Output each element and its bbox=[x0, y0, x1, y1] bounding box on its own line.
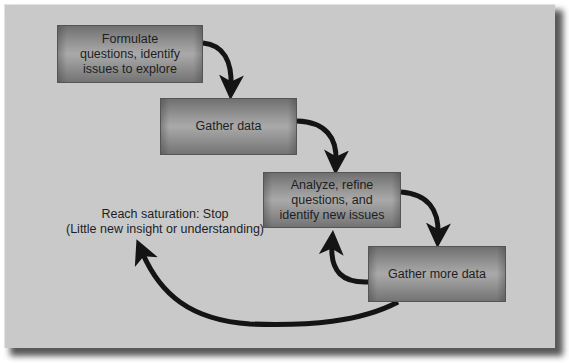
step-analyze-line-2: questions, and bbox=[280, 193, 385, 208]
step-formulate-line-3: issues to explore bbox=[80, 62, 180, 77]
step-formulate-questions: Formulate questions, identify issues to … bbox=[57, 25, 203, 83]
arrow-gather-more-to-analyze bbox=[332, 244, 368, 282]
arrow-analyze-to-gather-more bbox=[401, 192, 438, 234]
stop-note: Reach saturation: Stop (Little new insig… bbox=[60, 207, 270, 237]
arrow-formulate-to-gather bbox=[203, 43, 231, 86]
step-gather-more-label: Gather more data bbox=[388, 267, 486, 282]
step-gather-label: Gather data bbox=[195, 119, 261, 134]
step-analyze-line-3: identify new issues bbox=[280, 208, 385, 223]
step-formulate-line-1: Formulate bbox=[80, 32, 180, 47]
step-formulate-line-2: questions, identify bbox=[80, 47, 180, 62]
stop-note-line-1: Reach saturation: Stop bbox=[60, 207, 270, 222]
step-analyze-refine: Analyze, refine questions, and identify … bbox=[263, 172, 401, 228]
step-analyze-line-1: Analyze, refine bbox=[280, 178, 385, 193]
arrow-gather-to-analyze bbox=[297, 121, 336, 161]
step-gather-more-data: Gather more data bbox=[368, 246, 506, 302]
stop-note-line-2: (Little new insight or understanding) bbox=[60, 222, 270, 237]
step-gather-data: Gather data bbox=[160, 98, 297, 155]
arrow-gather-more-to-stop bbox=[142, 252, 398, 324]
